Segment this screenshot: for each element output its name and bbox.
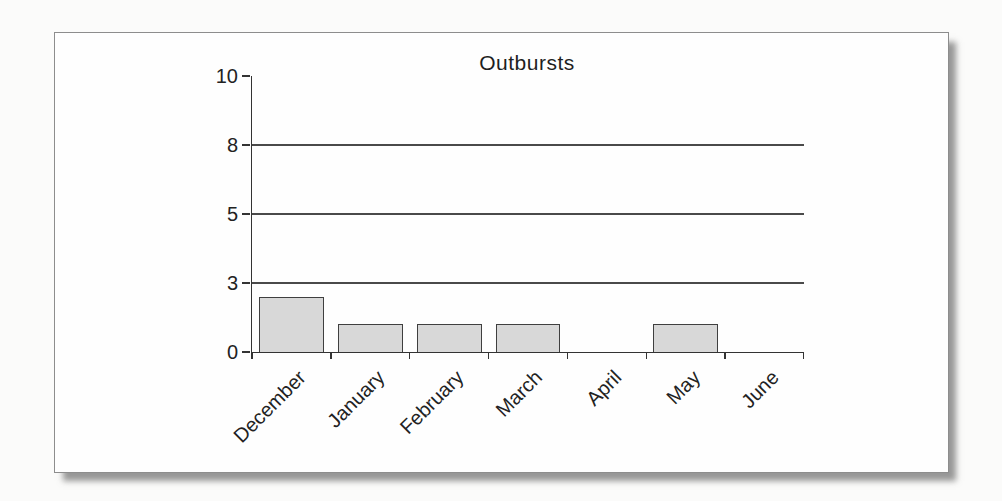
page: Outbursts 035810 DecemberJanuaryFebruary… <box>0 0 1002 501</box>
x-tick-2 <box>409 352 411 359</box>
y-tick-0 <box>242 351 250 353</box>
y-tick-10 <box>242 75 250 77</box>
x-tick-3 <box>488 352 490 359</box>
gridline-5 <box>252 213 804 214</box>
x-tick-4 <box>567 352 569 359</box>
y-tick-8 <box>242 144 250 146</box>
chart-card: Outbursts 035810 DecemberJanuaryFebruary… <box>54 32 949 473</box>
plot-area <box>251 76 804 353</box>
gridline-8 <box>252 144 804 145</box>
bar-may <box>653 324 718 352</box>
chart-title: Outbursts <box>251 51 803 75</box>
bar-january <box>338 324 403 352</box>
x-axis-label-june: June <box>737 366 783 412</box>
x-tick-1 <box>330 352 332 359</box>
x-axis-label-december: December <box>229 366 310 447</box>
y-tick-3 <box>242 282 250 284</box>
y-tick-5 <box>242 213 250 215</box>
x-tick-0 <box>251 352 253 359</box>
x-axis-label-april: April <box>582 366 626 410</box>
x-axis-label-january: January <box>323 366 389 432</box>
x-tick-5 <box>646 352 648 359</box>
bar-february <box>417 324 482 352</box>
y-axis-label-0: 0 <box>178 339 238 365</box>
x-axis-label-february: February <box>396 366 468 438</box>
bar-march <box>496 324 561 352</box>
x-axis-label-march: March <box>492 366 547 421</box>
gridline-3 <box>252 282 804 283</box>
x-tick-6 <box>724 352 726 359</box>
x-tick-7 <box>803 352 805 359</box>
y-axis-label-3: 3 <box>178 270 238 296</box>
y-axis-label-10: 10 <box>178 63 238 89</box>
bar-december <box>259 297 324 352</box>
y-axis-label-8: 8 <box>178 132 238 158</box>
x-axis-label-may: May <box>662 366 704 408</box>
y-axis-label-5: 5 <box>178 201 238 227</box>
